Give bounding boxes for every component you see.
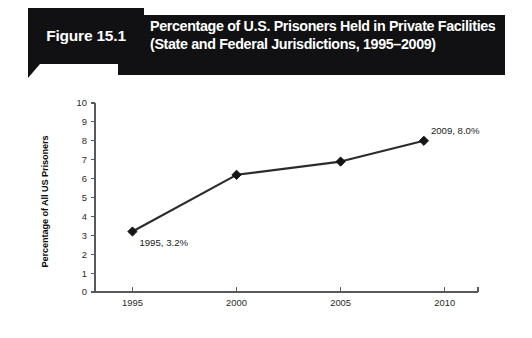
y-tick-label: 1 (82, 268, 87, 279)
x-tick-label: 2000 (226, 297, 247, 308)
figure-title-line-2: (State and Federal Jurisdictions, 1995–2… (150, 36, 500, 54)
y-tick-label: 10 (77, 97, 87, 108)
y-tick-label: 5 (82, 192, 87, 203)
x-tick-label: 2005 (330, 297, 351, 308)
y-tick-label: 6 (82, 173, 87, 184)
x-axis: 1995200020052010 (95, 287, 478, 308)
y-tick-label: 8 (82, 135, 87, 146)
x-axis-tick-labels: 1995200020052010 (122, 297, 455, 308)
y-tick-label: 7 (82, 154, 87, 165)
data-point-marker (232, 170, 241, 179)
y-tick-label: 3 (82, 230, 87, 241)
y-tick-label: 2 (82, 249, 87, 260)
figure-header: Figure 15.1 Percentage of U.S. Prisoners… (0, 0, 532, 88)
data-series-line (132, 141, 423, 232)
y-axis: 012345678910 (77, 97, 95, 297)
x-axis-ticks (132, 287, 478, 292)
data-point-labels: 1995, 3.2%2009, 8.0% (139, 125, 479, 248)
y-tick-label: 4 (82, 211, 87, 222)
y-tick-label: 0 (82, 286, 87, 297)
y-axis-ticks (91, 103, 95, 292)
x-tick-label: 1995 (122, 297, 143, 308)
figure-title-line-1: Percentage of U.S. Prisoners Held in Pri… (150, 18, 500, 36)
line-chart: 012345678910 1995200020052010 Percentage… (0, 88, 532, 338)
y-tick-label: 9 (82, 116, 87, 127)
data-point-label: 1995, 3.2% (139, 237, 188, 248)
data-point-marker (419, 136, 428, 145)
y-axis-title: Percentage of All US Prisoners (40, 136, 50, 268)
data-point-label: 2009, 8.0% (431, 125, 480, 136)
figure-title: Percentage of U.S. Prisoners Held in Pri… (150, 18, 500, 53)
x-tick-label: 2010 (434, 297, 455, 308)
figure-number-tab-tail (28, 64, 40, 78)
y-axis-tick-labels: 012345678910 (77, 97, 87, 297)
chart-container: 012345678910 1995200020052010 Percentage… (0, 88, 532, 338)
figure-number-label: Figure 15.1 (28, 8, 144, 64)
data-point-marker (128, 227, 137, 236)
data-point-marker (336, 157, 345, 166)
